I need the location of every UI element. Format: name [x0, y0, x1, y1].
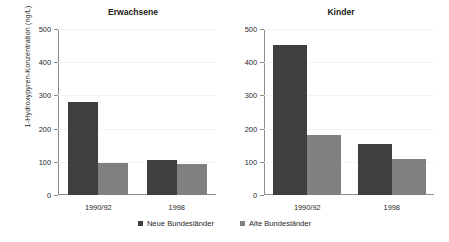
bar-alte-bundeslaender[interactable] — [98, 163, 128, 195]
legend-item-neue-bundeslaender[interactable]: Neue Bundesländer — [138, 219, 214, 228]
panel-title-kinder: Kinder — [226, 7, 446, 17]
y-tick-label-300: 300 — [39, 91, 51, 100]
y-tick-label-400: 400 — [245, 58, 257, 67]
bar-alte-bundeslaender[interactable] — [392, 159, 426, 195]
panel-title-erwachsene: Erwachsene — [26, 7, 222, 17]
y-tick-200 — [260, 129, 264, 130]
bar-groups-erwachsene: 1990/92 1998 — [59, 29, 216, 195]
y-tick-500 — [54, 29, 58, 30]
chart-legend: Neue Bundesländer Alte Bundesländer — [0, 219, 449, 228]
y-tick-label-100: 100 — [245, 157, 257, 166]
y-tick-label-0: 0 — [253, 191, 257, 200]
y-tick-label-200: 200 — [39, 124, 51, 133]
y-tick-label-500: 500 — [39, 25, 51, 34]
legend-swatch-icon — [240, 221, 245, 226]
plot-area-kinder: 500 400 300 200 100 0 1990/92 1998 — [264, 29, 434, 195]
bar-group-1998: 1998 — [358, 29, 426, 195]
bar-alte-bundeslaender[interactable] — [177, 164, 207, 195]
bar-neue-bundeslaender[interactable] — [147, 160, 177, 195]
chart-figure: 1-Hydroxypyren-Konzentration (ng/L) Erwa… — [0, 0, 449, 242]
y-tick-300 — [54, 95, 58, 96]
y-tick-100 — [260, 162, 264, 163]
bar-neue-bundeslaender[interactable] — [273, 45, 307, 195]
legend-label: Neue Bundesländer — [147, 219, 214, 228]
y-tick-100 — [54, 162, 58, 163]
bar-neue-bundeslaender[interactable] — [68, 102, 98, 195]
y-tick-label-500: 500 — [245, 25, 257, 34]
chart-panel-erwachsene: Erwachsene 500 400 300 200 100 0 — [26, 0, 222, 215]
y-tick-label-200: 200 — [245, 124, 257, 133]
bar-groups-kinder: 1990/92 1998 — [265, 29, 434, 195]
bar-alte-bundeslaender[interactable] — [307, 135, 341, 195]
x-tick-label-1998: 1998 — [332, 203, 449, 212]
y-tick-500 — [260, 29, 264, 30]
y-tick-label-100: 100 — [39, 157, 51, 166]
bar-group-1990-92: 1990/92 — [273, 29, 341, 195]
legend-swatch-icon — [138, 221, 143, 226]
y-tick-400 — [260, 62, 264, 63]
plot-area-erwachsene: 500 400 300 200 100 0 1990/92 1998 — [58, 29, 216, 195]
y-tick-0 — [54, 195, 58, 196]
x-tick-label-1998: 1998 — [117, 203, 237, 212]
y-tick-200 — [54, 129, 58, 130]
chart-panel-kinder: Kinder 500 400 300 200 100 0 — [226, 0, 446, 215]
y-tick-label-300: 300 — [245, 91, 257, 100]
legend-item-alte-bundeslaender[interactable]: Alte Bundesländer — [240, 219, 311, 228]
y-tick-label-400: 400 — [39, 58, 51, 67]
y-tick-300 — [260, 95, 264, 96]
bar-group-1990-92: 1990/92 — [68, 29, 128, 195]
y-tick-400 — [54, 62, 58, 63]
bar-group-1998: 1998 — [147, 29, 207, 195]
y-tick-label-0: 0 — [47, 191, 51, 200]
y-tick-0 — [260, 195, 264, 196]
legend-label: Alte Bundesländer — [249, 219, 311, 228]
bar-neue-bundeslaender[interactable] — [358, 144, 392, 195]
